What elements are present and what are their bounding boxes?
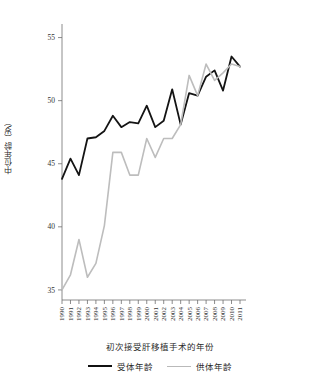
y-tick-label: 40: [48, 222, 56, 231]
legend-label-donor: 供体年龄: [196, 360, 232, 372]
y-tick-label: 55: [48, 33, 56, 42]
y-tick-label: 50: [48, 96, 56, 105]
x-axis-title: 初次接受肝移植手术的年份: [0, 340, 320, 352]
x-tick-label: 2007: [202, 307, 210, 322]
series-line-recipient: [62, 57, 240, 179]
x-tick-label: 2008: [211, 307, 219, 322]
y-tick-label: 35: [48, 286, 56, 295]
series-line-donor: [62, 64, 240, 290]
legend-swatch-donor: [167, 366, 191, 367]
chart-legend: 受体年龄 供体年龄: [0, 360, 320, 372]
x-tick-label: 1997: [118, 307, 126, 322]
legend-item-donor[interactable]: 供体年龄: [167, 360, 232, 372]
x-tick-label: 2003: [169, 307, 177, 322]
x-tick-label: 1999: [135, 307, 143, 322]
x-tick-label: 2004: [177, 307, 185, 322]
x-tick-label: 2011: [236, 307, 244, 321]
x-tick-label: 2000: [143, 307, 151, 322]
x-tick-label: 1995: [101, 307, 109, 322]
x-tick-label: 1996: [109, 307, 117, 322]
x-tick-label: 1998: [126, 307, 134, 322]
legend-swatch-recipient: [88, 365, 112, 367]
x-tick-label: 1991: [67, 307, 75, 322]
x-tick-label: 2006: [194, 307, 202, 322]
x-tick-label: 2002: [160, 307, 168, 322]
y-tick-label: 45: [48, 159, 56, 168]
x-tick-label: 1993: [84, 307, 92, 322]
legend-label-recipient: 受体年龄: [117, 360, 153, 372]
x-tick-label: 2005: [186, 307, 194, 322]
x-tick-label: 2001: [152, 307, 160, 322]
line-chart-plot: 3540455055199019911992199319941995199619…: [0, 0, 320, 385]
x-tick-label: 2010: [228, 307, 236, 322]
x-tick-label: 1990: [58, 307, 66, 322]
x-tick-label: 1994: [92, 307, 100, 322]
chart-figure: 中位年龄（岁） 35404550551990199119921993199419…: [0, 0, 320, 385]
x-tick-label: 1992: [75, 307, 83, 322]
x-tick-label: 2009: [219, 307, 227, 322]
legend-item-recipient[interactable]: 受体年龄: [88, 360, 153, 372]
